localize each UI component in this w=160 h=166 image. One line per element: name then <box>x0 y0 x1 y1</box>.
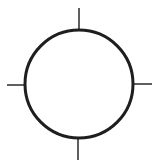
main-circle <box>25 30 133 138</box>
crosshair-circle-diagram <box>0 0 160 166</box>
